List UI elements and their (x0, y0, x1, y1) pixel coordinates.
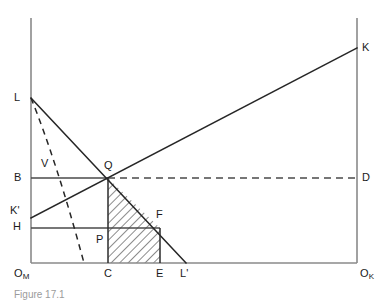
label-origin-k-sub: K (369, 272, 374, 281)
label-f: F (156, 209, 163, 220)
label-l-prime: L' (180, 268, 189, 279)
label-k: K (362, 42, 370, 53)
label-origin-m: OM (14, 268, 29, 282)
label-h: H (13, 221, 21, 232)
capital-line-kprime-k (31, 48, 357, 218)
label-b: B (14, 172, 22, 183)
label-c: C (104, 268, 112, 279)
label-origin-m-sub: M (23, 272, 30, 281)
label-origin-m-main: O (14, 267, 23, 279)
label-e: E (156, 268, 164, 279)
label-origin-k-main: O (360, 267, 369, 279)
marginal-curve-v-dashed (31, 98, 84, 263)
label-k-prime: K' (10, 205, 20, 216)
shaded-region-qcef (108, 178, 160, 263)
label-origin-k: OK (360, 268, 374, 282)
label-q: Q (104, 160, 113, 171)
figure-container: L B K' H V Q P F C E L' K D OM OK Figure… (0, 0, 390, 301)
economics-box-diagram (0, 0, 390, 301)
label-d: D (362, 172, 370, 183)
figure-caption: Figure 17.1 (14, 289, 65, 300)
label-v: V (41, 158, 49, 169)
label-p: P (96, 234, 104, 245)
label-l: L (14, 92, 20, 103)
